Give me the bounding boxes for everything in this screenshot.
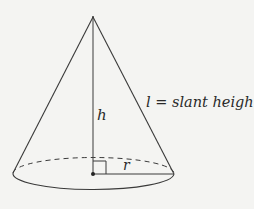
radius-label: r bbox=[123, 158, 130, 172]
base-ellipse-back-dashed bbox=[13, 157, 174, 174]
height-label: h bbox=[97, 108, 107, 123]
cone-left-side bbox=[13, 17, 93, 173]
base-center-point bbox=[91, 172, 95, 176]
slant-height-label: l = slant height bbox=[146, 95, 254, 110]
right-angle-marker bbox=[93, 161, 106, 174]
cone-diagram: h r l = slant height bbox=[0, 0, 254, 209]
apex-point bbox=[92, 16, 94, 18]
